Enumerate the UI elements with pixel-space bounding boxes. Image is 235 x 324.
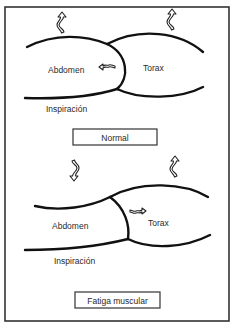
- abdomen-thorax-divider: [110, 197, 128, 239]
- respiratory-mechanics-diagram: Abdomen Torax Inspiración Normal: [0, 0, 235, 324]
- caption-normal: Normal: [101, 133, 129, 143]
- outer-frame: [5, 7, 229, 321]
- caption-fatiga: Fatiga muscular: [87, 296, 148, 306]
- phase-label: Inspiración: [46, 104, 87, 114]
- abdomen-down-arrow-icon: [70, 160, 79, 181]
- abdomen-label: Abdomen: [48, 65, 85, 75]
- wavy-arrow-toward-abdomen-icon: [99, 64, 115, 70]
- panel-fatiga-muscular: Abdomen Torax Inspiración Fatiga muscula…: [25, 156, 210, 308]
- phase-label: Inspiración: [54, 256, 95, 266]
- wavy-arrow-toward-torax-icon: [130, 208, 146, 214]
- abdomen-bottom-curve: [25, 89, 117, 98]
- torax-label: Torax: [148, 218, 170, 228]
- torax-top-curve: [110, 185, 208, 197]
- torax-bottom-curve: [128, 235, 210, 246]
- torax-top-curve: [107, 34, 203, 52]
- torax-label: Torax: [143, 63, 165, 73]
- abdomen-bottom-curve: [25, 239, 128, 250]
- abdomen-up-arrow-icon: [57, 12, 66, 33]
- panel-normal: Abdomen Torax Inspiración Normal: [25, 9, 203, 145]
- torax-bottom-curve: [117, 87, 203, 97]
- torax-up-arrow-icon: [167, 9, 176, 30]
- abdomen-top-curve: [27, 37, 107, 47]
- abdomen-label: Abdomen: [52, 221, 89, 231]
- abdomen-top-curve: [35, 197, 110, 209]
- torax-up-arrow-icon: [170, 156, 179, 177]
